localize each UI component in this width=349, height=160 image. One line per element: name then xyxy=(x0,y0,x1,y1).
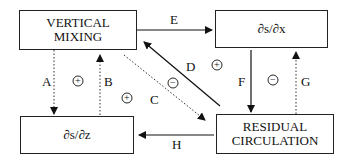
loop-sign-center-negative: − xyxy=(170,78,176,88)
node-ds-dx: ∂s/∂x xyxy=(215,10,328,48)
edge-label-f: F xyxy=(238,75,245,88)
edge-label-g: G xyxy=(301,75,310,88)
edge-label-d: D xyxy=(186,60,195,73)
edge-label-e: E xyxy=(170,13,178,26)
edge-label-h: H xyxy=(172,138,181,151)
loop-sign-center: + xyxy=(124,93,130,103)
node-residual-circulation: RESIDUAL CIRCULATION xyxy=(216,114,334,154)
loop-sign-right: − xyxy=(270,75,276,85)
edge-label-c: C xyxy=(150,93,159,106)
node-label: ∂s/∂z xyxy=(63,128,90,142)
edge-label-b: B xyxy=(104,75,113,88)
node-ds-dz: ∂s/∂z xyxy=(20,116,134,154)
node-vertical-mixing: VERTICAL MIXING xyxy=(19,10,137,50)
edge-label-a: A xyxy=(42,75,51,88)
node-label: VERTICAL MIXING xyxy=(38,16,118,44)
loop-sign-left: + xyxy=(75,76,81,86)
node-label: ∂s/∂x xyxy=(257,22,285,36)
loop-sign-upper-right: + xyxy=(214,60,220,70)
node-label: RESIDUAL CIRCULATION xyxy=(220,120,330,148)
